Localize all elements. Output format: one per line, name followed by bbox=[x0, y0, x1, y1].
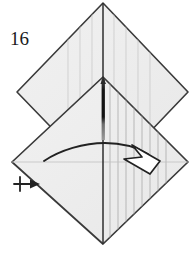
origami-diagram-canvas: 16 bbox=[0, 0, 195, 258]
step-number-label: 16 bbox=[10, 28, 29, 49]
origami-step-figure: 16 bbox=[0, 0, 195, 258]
dark-pleat-spike bbox=[102, 79, 105, 140]
